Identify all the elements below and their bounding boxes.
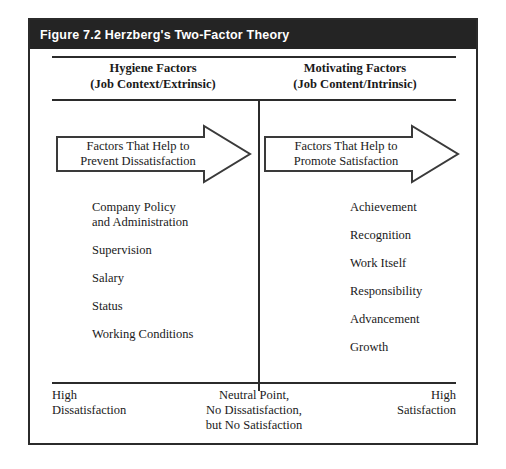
motivating-heading-line1: Motivating Factors — [254, 60, 456, 76]
list-item: Work Itself — [350, 256, 500, 271]
list-item: Growth — [350, 340, 500, 355]
rule-above-headers — [52, 56, 456, 58]
rule-below-headers — [52, 99, 456, 101]
scale-label-right: High Satisfaction — [397, 388, 456, 418]
list-item: Supervision — [92, 243, 252, 258]
motivating-arrow: Factors That Help to Promote Satisfactio… — [264, 124, 460, 184]
motivating-heading-line2: (Job Content/Intrinsic) — [254, 76, 456, 92]
column-divider — [258, 99, 260, 391]
scale-label-center: Neutral Point, No Dissatisfaction, but N… — [154, 388, 354, 433]
hygiene-arrow-label: Factors That Help to Prevent Dissatisfac… — [64, 124, 212, 184]
list-item: Advancement — [350, 312, 500, 327]
list-item: Status — [92, 299, 252, 314]
motivating-arrow-label: Factors That Help to Promote Satisfactio… — [272, 124, 420, 184]
column-headers: Hygiene Factors (Job Context/Extrinsic) … — [52, 60, 456, 92]
list-item: Company Policy and Administration — [92, 200, 252, 230]
motivating-column-heading: Motivating Factors (Job Content/Intrinsi… — [254, 60, 456, 92]
list-item: Salary — [92, 271, 252, 286]
list-item: Achievement — [350, 200, 500, 215]
hygiene-arrow: Factors That Help to Prevent Dissatisfac… — [56, 124, 252, 184]
list-item: Responsibility — [350, 284, 500, 299]
motivating-arrow-line2: Promote Satisfaction — [294, 154, 399, 169]
list-item: Recognition — [350, 228, 500, 243]
figure-title: Figure 7.2 Herzberg's Two-Factor Theory — [30, 28, 289, 42]
hygiene-arrow-line1: Factors That Help to — [87, 139, 190, 154]
figure-container: Figure 7.2 Herzberg's Two-Factor Theory … — [28, 18, 478, 445]
hygiene-column-heading: Hygiene Factors (Job Context/Extrinsic) — [52, 60, 254, 92]
satisfaction-scale-line — [52, 382, 456, 384]
hygiene-heading-line2: (Job Context/Extrinsic) — [52, 76, 254, 92]
motivating-factor-list: Achievement Recognition Work Itself Resp… — [350, 200, 500, 368]
hygiene-heading-line1: Hygiene Factors — [52, 60, 254, 76]
satisfaction-scale-labels: High Dissatisfaction Neutral Point, No D… — [52, 388, 456, 442]
figure-title-bar: Figure 7.2 Herzberg's Two-Factor Theory — [30, 20, 476, 49]
hygiene-arrow-line2: Prevent Dissatisfaction — [80, 154, 196, 169]
scale-label-left: High Dissatisfaction — [52, 388, 126, 418]
list-item: Working Conditions — [92, 327, 252, 342]
hygiene-factor-list: Company Policy and Administration Superv… — [92, 200, 252, 355]
motivating-arrow-line1: Factors That Help to — [295, 139, 398, 154]
